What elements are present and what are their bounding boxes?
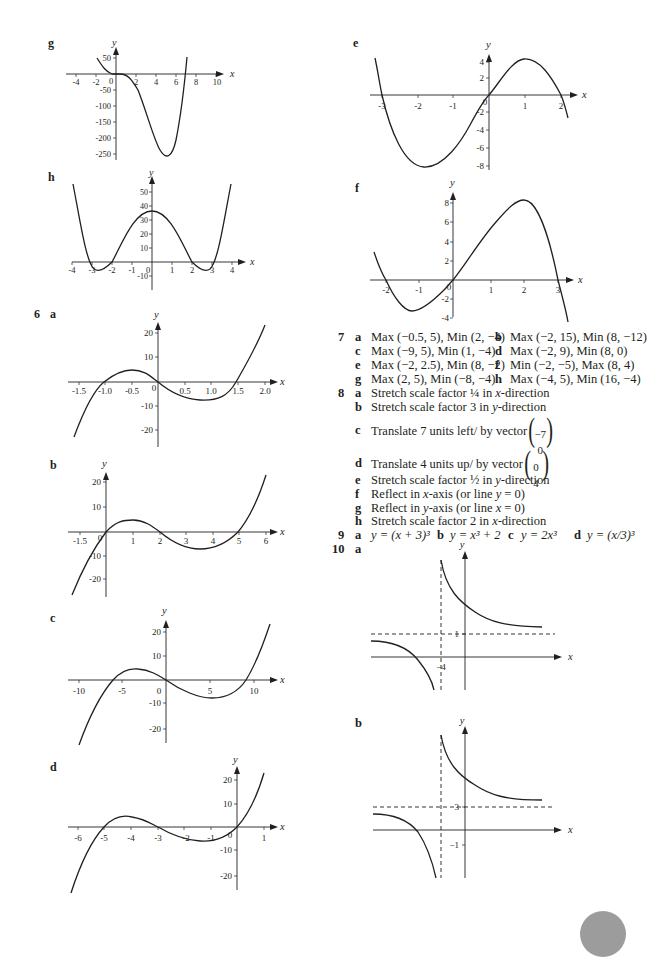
page-number-marker — [580, 911, 626, 957]
svg-text:−1: −1 — [449, 840, 459, 850]
svg-text:3: 3 — [455, 802, 460, 812]
svg-text:y: y — [459, 715, 465, 726]
svg-text:x: x — [567, 824, 573, 835]
